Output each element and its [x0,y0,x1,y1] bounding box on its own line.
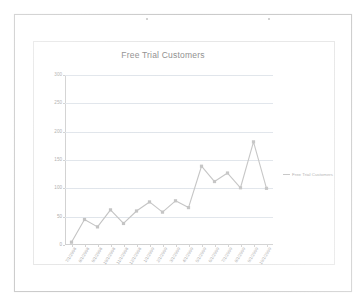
data-point-marker[interactable] [174,199,177,202]
data-point-marker[interactable] [109,208,112,211]
y-axis-tick-mark [63,245,65,246]
scanned-page-sheet: Free Trial Customers 050100150200250300 … [14,14,352,292]
x-axis-tick-label: 8/1/2008 [78,247,91,263]
scan-speck [146,18,148,20]
x-axis-tick-label: 7/1/2008 [65,247,78,263]
plot-area[interactable]: 050100150200250300 [65,75,273,245]
series-line [72,142,267,242]
x-axis-tick-label: 9/1/2009 [247,247,260,263]
y-axis-tick-label: 250 [54,101,62,106]
x-axis-tick-label: 1/1/2009 [143,247,156,263]
y-axis-tick-label: 300 [54,73,62,78]
data-point-marker[interactable] [161,211,164,214]
y-axis-tick-label: 200 [54,129,62,134]
data-point-marker[interactable] [252,140,255,143]
x-axis-tick-label: 3/1/2009 [169,247,182,263]
x-axis-tick-label: 10/1/2008 [102,247,116,265]
data-point-marker[interactable] [239,186,242,189]
y-axis-tick-label: 0 [59,243,62,248]
y-axis-tick-label: 150 [54,158,62,163]
line-series-free-trial-customers [65,75,273,245]
data-point-marker[interactable] [226,171,229,174]
data-point-marker[interactable] [83,218,86,221]
data-point-marker[interactable] [135,209,138,212]
legend-color-swatch [283,174,290,175]
y-axis-tick-label: 100 [54,186,62,191]
data-point-marker[interactable] [187,206,190,209]
data-point-marker[interactable] [213,180,216,183]
x-axis-tick-label: 8/1/2009 [234,247,247,263]
data-point-marker[interactable] [265,187,268,190]
chart-title: Free Trial Customers [34,50,292,60]
x-axis-tick-label: 12/1/2008 [128,247,142,265]
legend-entry-label: Free Trial Customers [292,172,333,177]
x-axis-tick-label: 2/1/2009 [156,247,169,263]
x-axis-tick-label: 9/1/2008 [91,247,104,263]
data-point-marker[interactable] [122,222,125,225]
x-axis-tick-label: 4/1/2009 [182,247,195,263]
chart-container[interactable]: Free Trial Customers 050100150200250300 … [33,41,335,265]
y-axis-tick-label: 50 [57,214,62,219]
chart-legend[interactable]: Free Trial Customers [283,172,333,177]
x-axis-tick-label: 7/1/2009 [221,247,234,263]
data-point-marker[interactable] [148,200,151,203]
x-axis-tick-labels: 7/1/20088/1/20089/1/200810/1/200811/1/20… [65,247,273,281]
data-point-marker[interactable] [96,225,99,228]
x-axis-tick-label: 5/1/2009 [195,247,208,263]
data-point-marker[interactable] [200,165,203,168]
x-axis-tick-label: 6/1/2009 [208,247,221,263]
scan-speck [268,18,270,20]
x-axis-tick-label: 10/1/2009 [258,247,272,265]
